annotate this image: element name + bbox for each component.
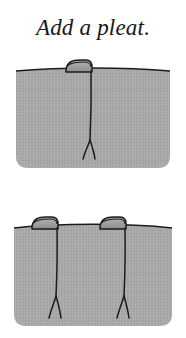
pleat-tab-1 bbox=[66, 60, 92, 72]
double-pleat-illustration bbox=[0, 206, 186, 334]
figure-double-pleat bbox=[0, 206, 186, 334]
pleat-tab-2 bbox=[100, 217, 126, 229]
instruction-page: Add a pleat. bbox=[0, 0, 186, 338]
fabric-panel bbox=[12, 224, 174, 328]
figure-single-pleat bbox=[0, 58, 186, 176]
fabric-fill bbox=[16, 68, 170, 168]
fabric-fill bbox=[14, 224, 172, 326]
single-pleat-illustration bbox=[0, 58, 186, 176]
pleat-tab-1 bbox=[32, 217, 58, 229]
page-title: Add a pleat. bbox=[0, 14, 186, 42]
